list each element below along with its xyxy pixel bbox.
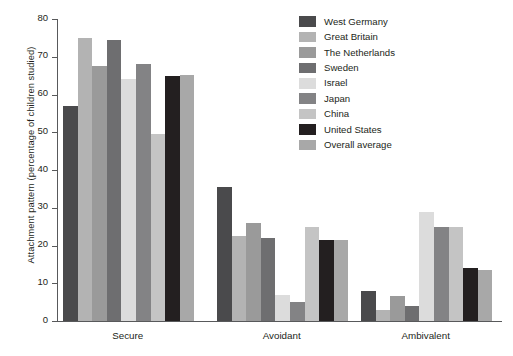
y-tick-label: 0 [14,314,48,325]
y-tick-label: 80 [14,12,48,23]
plot-area: 01020304050607080 [57,20,502,322]
bar [136,64,151,321]
x-axis-label-ambivalent: Ambivalent [366,330,486,341]
bar [180,75,195,322]
y-tick-label: 70 [14,49,48,60]
y-tick-label: 30 [14,200,48,211]
bar [63,106,78,321]
legend-item: West Germany [299,14,395,29]
legend-label: Sweden [324,63,359,73]
bar [92,66,107,321]
legend-swatch-icon [299,78,316,89]
legend-item: United States [299,122,395,137]
legend-label: Great Britain [324,32,378,42]
y-tick-mark [52,132,58,133]
legend-swatch-icon [299,63,316,74]
legend-swatch-icon [299,109,316,120]
legend-swatch-icon [299,93,316,104]
legend-label: The Netherlands [324,48,395,58]
y-tick-mark [52,283,58,284]
y-tick-label: 10 [14,276,48,287]
bar [334,240,349,321]
bar [319,240,334,321]
legend-item: Sweden [299,60,395,75]
legend-item: Great Britain [299,29,395,44]
y-tick-label: 40 [14,163,48,174]
legend-swatch-icon [299,32,316,43]
bar [449,227,464,321]
bar [405,306,420,321]
bar [78,38,93,321]
legend-swatch-icon [299,124,316,135]
x-axis-label-avoidant: Avoidant [222,330,342,341]
bar-chart: Attachment pattern (percentage of childr… [0,0,513,356]
legend: West GermanyGreat BritainThe Netherlands… [299,14,395,153]
legend-label: Japan [324,94,350,104]
y-tick-label: 50 [14,125,48,136]
bar [463,268,478,321]
bar [419,212,434,321]
legend-item: Israel [299,76,395,91]
y-tick-label: 60 [14,87,48,98]
legend-item: Overall average [299,137,395,152]
bar [165,76,180,321]
legend-label: China [324,109,349,119]
legend-swatch-icon [299,16,316,27]
legend-swatch-icon [299,140,316,151]
y-tick-mark [52,19,58,20]
legend-item: Japan [299,91,395,106]
bar [361,291,376,321]
bar [478,270,493,321]
legend-label: United States [324,125,382,135]
y-tick-mark [52,208,58,209]
bar [434,227,449,321]
y-tick-mark [52,170,58,171]
bar [246,223,261,321]
bar [390,296,405,321]
legend-label: West Germany [324,17,388,27]
y-tick-mark [52,95,58,96]
y-tick-mark [52,321,58,322]
legend-item: The Netherlands [299,45,395,60]
legend-label: Overall average [324,140,392,150]
x-axis-label-secure: Secure [68,330,188,341]
bar [232,236,247,321]
y-tick-label: 20 [14,238,48,249]
bar [107,40,122,321]
y-tick-mark [52,246,58,247]
bar [217,187,232,321]
legend-swatch-icon [299,47,316,58]
bar [290,302,305,321]
legend-label: Israel [324,78,347,88]
bar [121,79,136,321]
y-tick-mark [52,57,58,58]
bar [376,310,391,321]
bar [305,227,320,321]
bar [261,238,276,321]
bar [151,134,166,321]
bar [275,295,290,321]
legend-item: China [299,106,395,121]
